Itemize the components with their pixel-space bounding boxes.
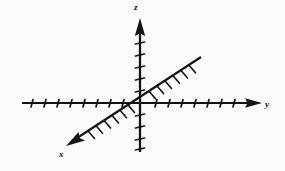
z-axis-group — [135, 18, 145, 152]
x-axis-ticks-negative — [150, 66, 196, 99]
x-axis-group — [66, 57, 201, 146]
y-axis-label: y — [265, 100, 269, 109]
axes-drawing — [0, 0, 285, 171]
y-axis-group — [22, 98, 262, 108]
coordinate-axes-figure: z y x — [0, 0, 285, 171]
x-axis-label: x — [59, 150, 64, 159]
y-axis-arrowhead — [245, 98, 262, 108]
z-axis-arrowhead — [135, 18, 145, 36]
x-axis-ticks-positive — [89, 106, 135, 139]
z-axis-label: z — [134, 3, 138, 12]
